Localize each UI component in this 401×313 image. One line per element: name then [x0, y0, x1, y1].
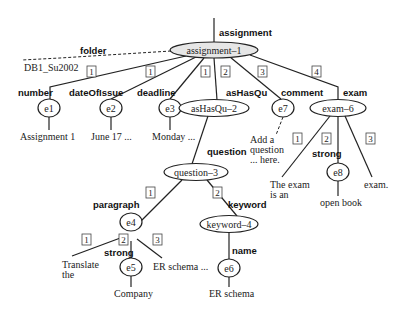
edge-label-comment: comment: [281, 87, 324, 98]
svg-text:e4: e4: [126, 217, 135, 228]
svg-text:2: 2: [223, 67, 228, 77]
svg-text:1: 1: [89, 67, 94, 77]
edge-label-asHasQu: asHasQu: [226, 87, 267, 98]
edge-label-dateOfIssue: dateOfIssue: [69, 87, 123, 98]
index-box: 3: [258, 66, 267, 77]
svg-text:3: 3: [155, 235, 160, 245]
edge-label-question: question: [207, 146, 247, 157]
node-e5: e5: [120, 258, 142, 276]
index-box: 1: [87, 66, 96, 77]
value-exam-text1-line2: is an: [270, 189, 289, 200]
edge-label-paragraph: paragraph: [93, 199, 140, 210]
svg-text:3: 3: [260, 67, 265, 77]
node-keyword-4: keyword–4: [200, 216, 258, 233]
edge-exam-text1: [282, 116, 330, 177]
svg-text:3: 3: [368, 134, 373, 144]
edge-label-number: number: [18, 87, 53, 98]
index-box: 3: [366, 133, 375, 144]
value-e7-line3: ... here.: [250, 154, 280, 165]
index-box: 1: [201, 66, 210, 77]
svg-text:keyword–4: keyword–4: [207, 219, 252, 230]
index-box: 1: [146, 187, 155, 198]
node-e7: e7: [272, 99, 294, 117]
svg-text:1: 1: [148, 67, 153, 77]
svg-text:1: 1: [203, 67, 208, 77]
value-exam-text3: exam.: [364, 179, 388, 190]
node-e1: e1: [38, 99, 60, 117]
folder-edge-label: folder: [80, 45, 107, 56]
value-e1: Assignment 1: [20, 131, 75, 142]
edge-label-name: name: [232, 245, 257, 256]
index-box: 1: [293, 133, 302, 144]
xml-tree-diagram: assignment folder DB1_Su2002 1 1 1 2 3 4…: [0, 0, 401, 313]
value-e8: open book: [320, 197, 362, 208]
value-e2: June 17 ...: [91, 131, 132, 142]
node-e6: e6: [218, 259, 240, 277]
index-box: 2: [322, 133, 331, 144]
value-e6: ER schema: [209, 288, 255, 299]
node-e4: e4: [120, 213, 142, 231]
index-box: 4: [312, 66, 321, 77]
edge-label-keyword: keyword: [228, 199, 267, 210]
svg-text:e8: e8: [333, 167, 342, 178]
svg-text:2: 2: [121, 235, 126, 245]
svg-text:1: 1: [295, 134, 300, 144]
svg-text:4: 4: [314, 67, 319, 77]
svg-text:assignment–1: assignment–1: [187, 45, 242, 56]
edge-paragraph: [138, 180, 182, 224]
value-e5: Company: [114, 288, 153, 299]
edge-label-exam: exam: [343, 87, 367, 98]
edge-label-deadline: deadline: [137, 87, 176, 98]
value-e4-text3: ER schema ...: [153, 261, 208, 272]
svg-text:e6: e6: [224, 263, 233, 274]
node-asHasQu-2: asHasQu–2: [179, 100, 249, 117]
svg-text:2: 2: [324, 134, 329, 144]
svg-text:1: 1: [84, 235, 89, 245]
svg-text:exam–6: exam–6: [322, 103, 354, 114]
folder-value: DB1_Su2002: [24, 62, 78, 73]
node-e8: e8: [327, 163, 349, 181]
node-e2: e2: [100, 99, 122, 117]
edge-asHasQu: [214, 58, 217, 100]
node-assignment-1: assignment–1: [170, 42, 258, 58]
svg-text:question–3: question–3: [174, 167, 218, 178]
node-exam-6: exam–6: [310, 100, 366, 117]
edge-exam-text3: [345, 116, 372, 177]
root-edge-label: assignment: [219, 27, 273, 38]
index-box: 2: [221, 66, 230, 77]
index-box: 3: [153, 234, 162, 245]
svg-text:1: 1: [148, 188, 153, 198]
svg-text:e1: e1: [44, 103, 53, 114]
edge-label-strong-exam: strong: [312, 148, 342, 159]
value-e4-text1-line2: the: [62, 269, 75, 280]
index-box: 1: [146, 66, 155, 77]
node-question-3: question–3: [164, 164, 228, 181]
index-box: 2: [119, 234, 128, 245]
edge-label-strong-paragraph: strong: [104, 247, 134, 258]
index-box: 1: [82, 234, 91, 245]
svg-text:e2: e2: [106, 103, 115, 114]
node-e3: e3: [159, 99, 181, 117]
value-e3: Monday ...: [152, 131, 195, 142]
svg-text:e5: e5: [126, 262, 135, 273]
svg-text:asHasQu–2: asHasQu–2: [191, 103, 237, 114]
svg-text:e3: e3: [165, 103, 174, 114]
edge-e7-value: [276, 117, 283, 135]
index-box: 2: [213, 187, 222, 198]
svg-text:2: 2: [215, 188, 220, 198]
svg-text:e7: e7: [278, 103, 287, 114]
